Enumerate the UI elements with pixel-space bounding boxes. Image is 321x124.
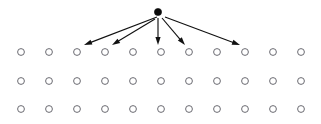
grid-node-r3-c5 — [130, 106, 137, 113]
grid-node-r1-c2 — [46, 49, 53, 56]
grid-node-r1-c11 — [298, 49, 305, 56]
arrow-to-col9-shaft — [165, 17, 234, 43]
grid-node-r3-c2 — [46, 106, 53, 113]
grid-node-r3-c8 — [214, 106, 221, 113]
grid-node-r1-c9 — [242, 49, 249, 56]
grid-node-r1-c1 — [18, 49, 25, 56]
source-node — [154, 8, 161, 15]
grid-node-r1-c5 — [130, 49, 137, 56]
diffusion-arrows — [84, 17, 240, 45]
grid-node-r1-c4 — [102, 49, 109, 56]
grid-node-r2-c11 — [298, 78, 305, 85]
grid-node-r2-c8 — [214, 78, 221, 85]
grid-node-r1-c7 — [186, 49, 193, 56]
grid-node-r3-c7 — [186, 106, 193, 113]
grid-node-r1-c10 — [270, 49, 277, 56]
grid-node-r3-c1 — [18, 106, 25, 113]
grid-node-r1-c6 — [158, 49, 165, 56]
grid-node-r3-c11 — [298, 106, 305, 113]
lattice-grid — [18, 49, 305, 113]
grid-node-r3-c10 — [270, 106, 277, 113]
grid-node-r2-c7 — [186, 78, 193, 85]
grid-node-r3-c6 — [158, 106, 165, 113]
grid-node-r2-c5 — [130, 78, 137, 85]
diagram-canvas — [0, 0, 321, 124]
grid-node-r3-c3 — [74, 106, 81, 113]
grid-node-r2-c4 — [102, 78, 109, 85]
grid-node-r3-c4 — [102, 106, 109, 113]
arrow-to-col6-head — [155, 37, 160, 45]
arrow-to-col4-head — [112, 39, 120, 45]
arrow-to-col3-head — [84, 40, 92, 45]
grid-node-r2-c6 — [158, 78, 165, 85]
grid-node-r3-c9 — [242, 106, 249, 113]
grid-node-r2-c1 — [18, 78, 25, 85]
grid-node-r2-c9 — [242, 78, 249, 85]
grid-node-r1-c3 — [74, 49, 81, 56]
arrow-to-col3-shaft — [90, 17, 157, 43]
diagram-svg — [0, 0, 321, 124]
grid-node-r1-c8 — [214, 49, 221, 56]
source-node-layer — [154, 8, 161, 15]
grid-node-r2-c2 — [46, 78, 53, 85]
arrow-to-col9-head — [232, 40, 240, 45]
grid-node-r2-c3 — [74, 78, 81, 85]
grid-node-r2-c10 — [270, 78, 277, 85]
